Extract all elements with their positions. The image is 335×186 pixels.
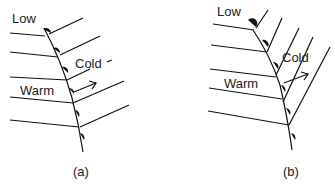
- caption-b: (b): [283, 164, 299, 179]
- label-cold-b: Cold: [282, 50, 309, 65]
- isobar-right: [80, 105, 129, 127]
- isobar-left: [10, 52, 58, 57]
- isobar-right: [267, 18, 282, 52]
- label-low-b: Low: [217, 4, 241, 19]
- isobar-left: [208, 111, 289, 125]
- isobar-left: [10, 33, 45, 36]
- label-low-a: Low: [12, 11, 36, 26]
- isobar-right: [60, 36, 100, 55]
- label-warm-b: Warm: [224, 76, 258, 91]
- isobar-right: [256, 10, 268, 28]
- dash-mark: [107, 60, 112, 62]
- isobar-left: [211, 45, 267, 52]
- label-warm-a: Warm: [20, 83, 54, 98]
- isobar-right: [283, 37, 313, 102]
- front-diagram: Low Cold Warm (a) Low Cold Warm (b): [0, 0, 335, 186]
- isobar-right: [73, 81, 124, 103]
- label-cold-a: Cold: [75, 56, 102, 71]
- isobar-left: [10, 120, 79, 127]
- isobar-left: [213, 24, 254, 30]
- occluded-front-line-b: [253, 30, 292, 150]
- isobar-left: [10, 77, 67, 80]
- isobar-right: [49, 18, 83, 34]
- caption-a: (a): [73, 164, 89, 179]
